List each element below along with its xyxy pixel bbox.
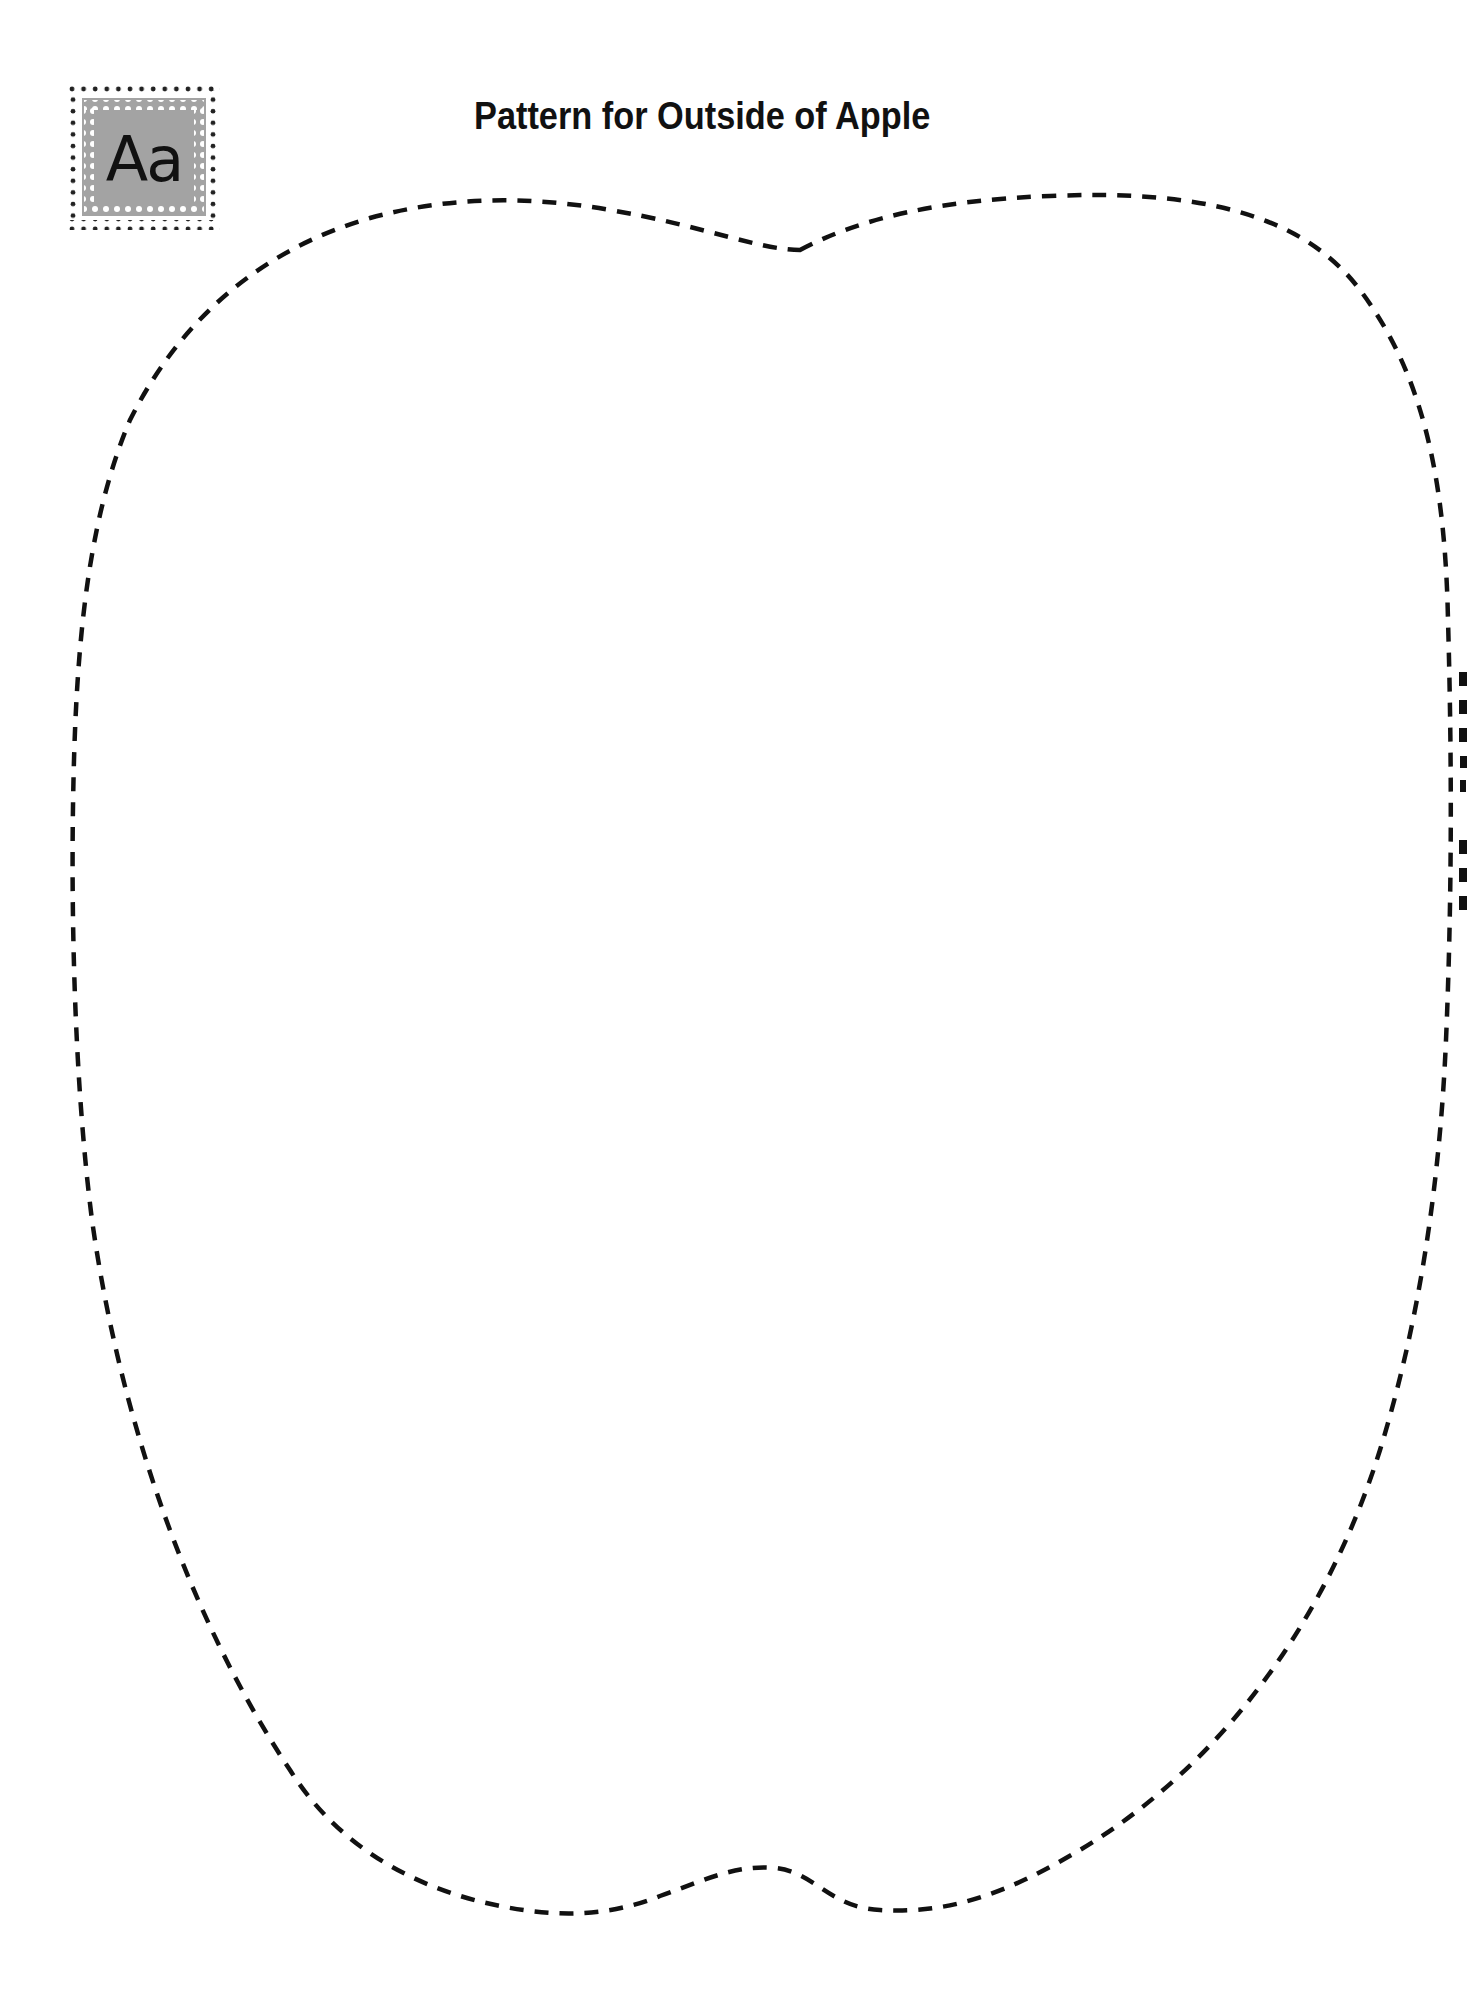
apple-outline-pattern bbox=[0, 0, 1470, 1991]
scan-edge-marks bbox=[1455, 670, 1470, 950]
apple-cut-line bbox=[73, 195, 1451, 1913]
worksheet-page: Aa Pattern for Outside of Apple bbox=[0, 0, 1470, 1991]
